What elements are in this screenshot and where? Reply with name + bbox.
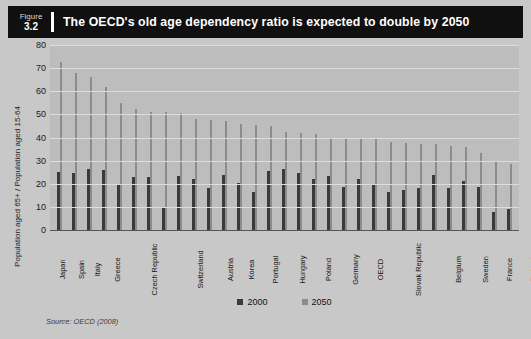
- bar-2050: [510, 164, 513, 230]
- x-axis-tick-text: Poland: [324, 258, 333, 281]
- x-axis-tick-text: Germany: [351, 254, 360, 284]
- chart-legend: 20002050: [50, 295, 519, 309]
- bar-2050: [465, 147, 468, 230]
- x-axis-tick-text: Japan: [58, 259, 67, 279]
- bar-2050: [180, 113, 183, 230]
- legend-label: 2000: [247, 297, 267, 307]
- grid-line: [50, 45, 519, 46]
- bar-2050: [60, 62, 63, 230]
- bar-2050: [120, 103, 123, 230]
- grid-line: [50, 138, 519, 139]
- y-axis-tick-label: 80: [36, 40, 46, 50]
- source-note: Source: OECD (2008): [46, 317, 118, 326]
- x-axis-tick-text: Italy: [93, 263, 102, 277]
- y-axis-tick-label: 60: [36, 86, 46, 96]
- x-axis-tick-text: France: [505, 258, 514, 281]
- plot-outer: 01020304050607080 JapanSpainItalyGreeceC…: [26, 45, 519, 333]
- bar-2050: [480, 153, 483, 230]
- legend-swatch-icon: [237, 299, 243, 305]
- figure-id: 3.2: [14, 22, 48, 32]
- bar-2050: [285, 132, 288, 230]
- figure-number-block: Figure 3.2: [14, 12, 48, 32]
- page-title: The OECD's old age dependency ratio is e…: [63, 15, 469, 29]
- y-axis-tick-label: 0: [41, 225, 46, 235]
- grid-line: [50, 207, 519, 208]
- chart-area: Population aged 65+ / Population aged 15…: [8, 43, 523, 335]
- bar-2050: [495, 161, 498, 230]
- legend-item[interactable]: 2000: [237, 297, 267, 307]
- y-axis-tick-label: 70: [36, 63, 46, 73]
- figure-container: Figure 3.2 The OECD's old age dependency…: [0, 0, 531, 339]
- x-axis-tick-text: Spain: [77, 260, 86, 279]
- x-axis-tick-label: Finland: [521, 231, 531, 309]
- y-axis-tick-label: 40: [36, 133, 46, 143]
- y-axis-tick-label: 20: [36, 179, 46, 189]
- y-axis-tick-label: 30: [36, 156, 46, 166]
- grid-line: [50, 184, 519, 185]
- bar-2050: [435, 144, 438, 230]
- y-axis-tick-label: 50: [36, 109, 46, 119]
- bar-2050: [390, 142, 393, 230]
- bar-2050: [405, 143, 408, 230]
- figure-header: Figure 3.2 The OECD's old age dependency…: [8, 6, 523, 38]
- bar-2050: [195, 119, 198, 230]
- y-axis-title-text: Population aged 65+ / Population aged 15…: [13, 106, 22, 267]
- bar-2050: [105, 87, 108, 230]
- x-axis-tick-text: OECD: [377, 259, 386, 280]
- bar-2050: [255, 125, 258, 230]
- bar-2050: [450, 146, 453, 230]
- x-axis-tick-text: Switzerland: [195, 250, 204, 288]
- bar-2050: [135, 109, 138, 230]
- x-axis-tick-text: Slovak Republic: [414, 243, 423, 296]
- bar-2050: [300, 133, 303, 230]
- x-axis-tick-text: Korea: [247, 260, 256, 280]
- plot-region: [50, 45, 519, 231]
- x-axis-tick-text: Portugal: [271, 256, 280, 284]
- x-axis-tick-text: Greece: [112, 257, 121, 281]
- bar-2050: [315, 134, 318, 230]
- legend-item[interactable]: 2050: [302, 297, 332, 307]
- bar-2050: [270, 126, 273, 230]
- x-axis-tick-text: Czech Republic: [150, 244, 159, 296]
- x-axis-tick-text: Hungary: [299, 256, 308, 284]
- y-axis-ticks: 01020304050607080: [26, 45, 48, 230]
- bar-2050: [420, 144, 423, 230]
- x-axis-tick-text: Belgium: [454, 256, 463, 283]
- grid-line: [50, 68, 519, 69]
- bar-2050: [240, 124, 243, 230]
- grid-line: [50, 161, 519, 162]
- legend-swatch-icon: [302, 299, 308, 305]
- y-axis-tick-label: 10: [36, 202, 46, 212]
- legend-label: 2050: [312, 297, 332, 307]
- y-axis-title: Population aged 65+ / Population aged 15…: [10, 81, 24, 291]
- bar-2050: [150, 112, 153, 230]
- x-axis-tick-text: Austria: [226, 258, 235, 281]
- header-divider: [51, 12, 54, 32]
- grid-line: [50, 91, 519, 92]
- grid-line: [50, 114, 519, 115]
- x-axis-tick-text: Sweden: [480, 256, 489, 283]
- bar-2050: [165, 112, 168, 230]
